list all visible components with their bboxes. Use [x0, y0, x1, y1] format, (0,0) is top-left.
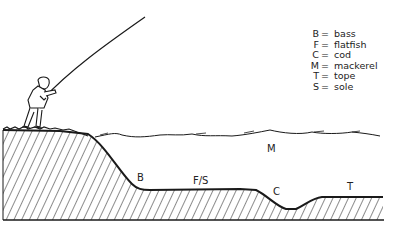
legend-separator: =: [319, 29, 331, 40]
legend-name: mackerel: [334, 60, 378, 71]
water-surface: [95, 130, 380, 137]
legend-name: bass: [334, 28, 356, 39]
label-cod: C: [273, 186, 280, 197]
legend-name: tope: [334, 70, 355, 81]
legend-key: C: [302, 50, 319, 61]
legend-key: T: [302, 71, 319, 82]
legend-row-sole: S= sole: [302, 82, 378, 93]
fishing-rod: [42, 17, 145, 100]
legend-name: flatfish: [334, 39, 367, 50]
label-flatfish-sole: F/S: [193, 175, 208, 186]
legend: B= bass F= flatfish C= cod M= mackerel T…: [302, 29, 378, 92]
label-tope: T: [347, 181, 353, 192]
legend-separator: =: [319, 71, 331, 82]
legend-key: B: [302, 29, 319, 40]
angler-figure: [22, 77, 56, 128]
legend-separator: =: [319, 50, 331, 61]
label-bass: B: [137, 172, 144, 183]
label-mackerel: M: [267, 143, 276, 154]
legend-separator: =: [319, 82, 331, 93]
legend-key: S: [302, 82, 319, 93]
legend-name: sole: [334, 81, 353, 92]
legend-name: cod: [334, 49, 351, 60]
